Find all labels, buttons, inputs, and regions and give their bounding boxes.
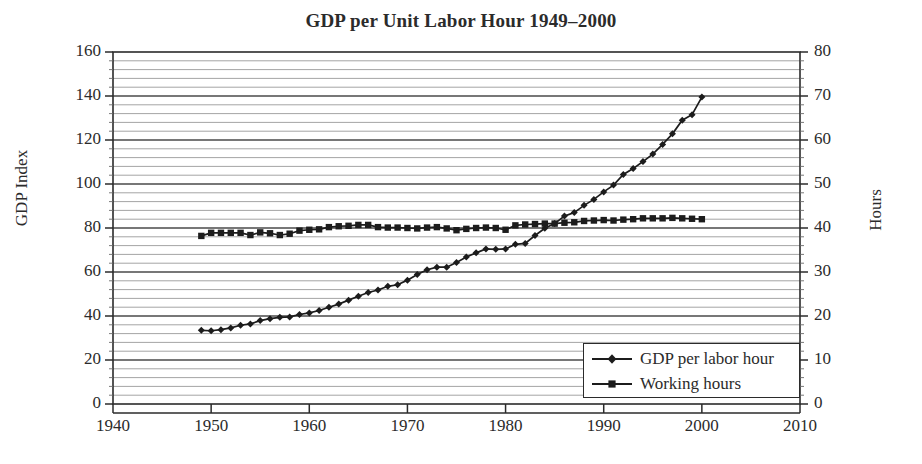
legend-item-label: Working hours	[640, 375, 741, 392]
y-axis-right-tick-label: 60	[814, 129, 874, 149]
x-axis-tick-label: 1990	[569, 416, 639, 436]
y-axis-left-tick-label: 20	[41, 349, 101, 369]
y-axis-right-tick-label: 50	[814, 173, 874, 193]
square-marker-icon	[591, 377, 633, 391]
x-axis-tick-label: 1970	[372, 416, 442, 436]
y-axis-right-tick-label: 10	[814, 349, 874, 369]
y-axis-right-tick-label: 0	[814, 393, 874, 413]
y-axis-left-tick-label: 60	[41, 261, 101, 281]
y-axis-right-tick-label: 20	[814, 305, 874, 325]
y-axis-left-tick-label: 0	[41, 393, 101, 413]
chart-figure: GDP per Unit Labor Hour 1949–2000 GDP In…	[0, 0, 922, 464]
legend-item[interactable]: Working hours	[584, 371, 799, 396]
y-axis-right-tick-label: 40	[814, 217, 874, 237]
x-axis-tick-label: 1940	[78, 416, 148, 436]
y-axis-left-tick-label: 120	[41, 129, 101, 149]
series-working-hours	[198, 215, 705, 239]
y-axis-right-tick-label: 80	[814, 41, 874, 61]
y-axis-right-tick-label: 30	[814, 261, 874, 281]
y-axis-left-tick-label: 40	[41, 305, 101, 325]
x-axis-tick-label: 1950	[176, 416, 246, 436]
y-axis-left-tick-label: 160	[41, 41, 101, 61]
y-axis-right-tick-label: 70	[814, 85, 874, 105]
x-axis-tick-label: 2010	[765, 416, 835, 436]
y-axis-left-ticks	[105, 52, 113, 404]
y-axis-left-tick-label: 100	[41, 173, 101, 193]
diamond-marker-icon	[591, 352, 633, 366]
legend-item-label: GDP per labor hour	[640, 350, 774, 367]
legend-item[interactable]: GDP per labor hour	[584, 346, 799, 371]
x-axis-tick-label: 2000	[667, 416, 737, 436]
x-axis-ticks	[113, 404, 800, 413]
chart-legend: GDP per labor hour Working hours	[583, 343, 800, 398]
y-axis-left-tick-label: 140	[41, 85, 101, 105]
y-axis-right-ticks	[800, 52, 808, 404]
y-axis-left-tick-label: 80	[41, 217, 101, 237]
x-axis-tick-label: 1980	[471, 416, 541, 436]
x-axis-tick-label: 1960	[274, 416, 344, 436]
